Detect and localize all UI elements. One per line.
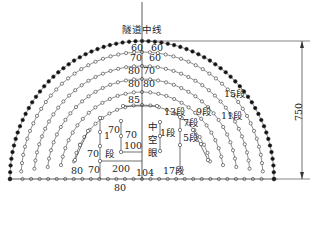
arc-2-hole (245, 151, 248, 154)
perimeter-hole (253, 106, 257, 110)
arc-3-hole (233, 157, 236, 160)
arc-3-hole (109, 83, 112, 86)
cut-hole (158, 149, 161, 152)
perimeter-hole (179, 45, 183, 49)
arc-2-hole (35, 151, 38, 154)
arc-4-hole (67, 139, 70, 142)
arc-4-hole (217, 147, 220, 150)
arc-2-hole (224, 106, 227, 109)
arc-1-hole (255, 137, 258, 140)
arc-3-hole (74, 106, 77, 109)
perimeter-hole (38, 90, 42, 94)
arc-4-hole (101, 101, 104, 104)
arc2-right-spacing: 60 (149, 52, 161, 63)
arc-5-hole (108, 112, 111, 115)
arc-2-hole (57, 106, 60, 109)
arc-1-hole (259, 153, 262, 156)
arc-3-hole (217, 118, 220, 121)
arc-2-hole (38, 143, 41, 146)
cut-hole (73, 158, 76, 161)
arc-1-hole (237, 100, 240, 103)
arc-1-hole (164, 53, 167, 56)
arc-3-hole (52, 141, 55, 144)
perimeter-hole (84, 52, 88, 56)
arc-1-hole (22, 153, 25, 156)
arc-2-hole (47, 120, 50, 123)
seg7-label: 7段 (183, 117, 199, 128)
perimeter-hole (260, 118, 264, 122)
arc-3-hole (94, 90, 97, 93)
arc-3-hole (157, 79, 160, 82)
arc-1-hole (187, 60, 190, 63)
perimeter-hole (14, 137, 18, 141)
arc-1-hole (26, 137, 29, 140)
cut-hole (98, 130, 101, 133)
arc-1-hole (80, 68, 83, 71)
cut-hole (119, 119, 122, 122)
arc-2-hole (94, 75, 97, 78)
perimeter-hole (27, 106, 31, 110)
label-70-c: 70 (87, 148, 99, 159)
arc-1-hole (67, 77, 70, 80)
perimeter-hole (166, 42, 170, 46)
perimeter-hole (224, 71, 228, 75)
cut-hole (78, 143, 81, 146)
perimeter-hole (208, 59, 212, 63)
perimeter-hole (265, 131, 269, 135)
arc-3-hole (222, 125, 225, 128)
arc-2-hole (187, 75, 190, 78)
perimeter-hole (16, 131, 20, 135)
cut-hole (121, 104, 124, 107)
arc-3-hole (235, 165, 238, 168)
seg17-label: 17段 (163, 165, 185, 176)
perimeter-hole (268, 144, 272, 148)
perimeter-hole (108, 43, 112, 47)
arc-1-hole (214, 77, 217, 80)
arc-1-hole (94, 60, 97, 63)
arc-1-hole (125, 52, 128, 55)
arc-1-hole (23, 145, 26, 148)
cut-hole (155, 104, 158, 107)
perimeter-hole (272, 170, 276, 174)
perimeter-hole (270, 150, 274, 154)
arrow-down-icon (300, 172, 304, 179)
arc-4-hole (165, 94, 168, 97)
arc-2-hole (180, 72, 183, 75)
arc-2-hole (213, 94, 216, 97)
arc-1-hole (201, 68, 204, 71)
perimeter-hole (47, 80, 51, 84)
arc-2-hole (52, 113, 55, 116)
arc-2-hole (33, 167, 36, 170)
perimeter-hole (96, 47, 100, 51)
arc-4-hole (59, 164, 62, 167)
perimeter-hole (197, 52, 201, 56)
seg9-label: 9段 (196, 106, 212, 117)
perimeter-hole (62, 66, 66, 70)
arc-1-hole (20, 162, 23, 165)
arc-5-hole (206, 151, 209, 154)
seg5-label: 5段 (183, 132, 199, 143)
arc-1-hole (60, 82, 63, 85)
perimeter-hole (10, 157, 14, 161)
arc-1-hole (249, 122, 252, 125)
arc-1-hole (20, 170, 23, 173)
arc-3-hole (81, 100, 84, 103)
perimeter-hole (229, 75, 233, 79)
arc-3-hole (165, 81, 168, 84)
arc-4-hole (116, 94, 119, 97)
arc-2-hole (156, 66, 159, 69)
perimeter-hole (24, 112, 28, 116)
seg1b-label: 1段 (160, 127, 176, 138)
arc-2-hole (101, 72, 104, 75)
perimeter-hole (214, 63, 218, 67)
arc-2-hole (243, 143, 246, 146)
perimeter-hole (11, 150, 15, 154)
arc-1-hole (117, 53, 120, 56)
arc-1-hole (101, 57, 104, 60)
arc-4-hole (124, 92, 127, 95)
perimeter-hole (172, 43, 176, 47)
arc-3-hole (194, 95, 197, 98)
arc-4-hole (149, 91, 152, 94)
arc-2-hole (34, 159, 37, 162)
arc-1-hole (172, 55, 175, 58)
